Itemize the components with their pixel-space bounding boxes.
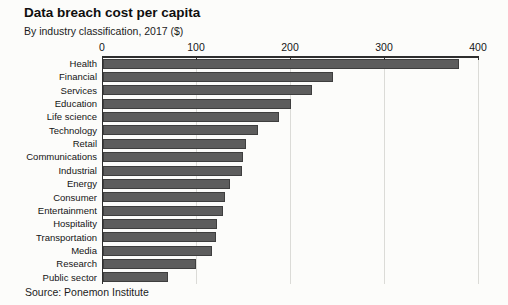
bar: [103, 125, 258, 135]
bar: [103, 72, 333, 82]
bar-track: [103, 124, 478, 137]
x-axis: 0100200300400: [102, 42, 478, 54]
chart-canvas: Data breach cost per capita By industry …: [0, 0, 508, 305]
x-tick-label: 400: [469, 42, 487, 54]
chart-subtitle: By industry classification, 2017 ($): [24, 25, 183, 37]
category-label: Health: [0, 59, 103, 69]
bar: [103, 112, 279, 122]
category-label: Consumer: [0, 193, 103, 203]
bar-track: [103, 70, 478, 83]
bar: [103, 219, 217, 229]
category-label: Retail: [0, 139, 103, 149]
x-axis-tick: [196, 57, 197, 60]
bar-rows: HealthFinancialServicesEducationLife sci…: [0, 57, 478, 284]
bar-row: Consumer: [0, 191, 478, 204]
bar-row: Communications: [0, 151, 478, 164]
category-label: Life science: [0, 112, 103, 122]
bar-row: Life science: [0, 110, 478, 123]
bar: [103, 259, 196, 269]
category-label: Research: [0, 259, 103, 269]
category-label: Financial: [0, 72, 103, 82]
bar-row: Services: [0, 84, 478, 97]
bar: [103, 85, 312, 95]
x-axis-tick: [478, 57, 479, 60]
bar-row: Retail: [0, 137, 478, 150]
category-label: Media: [0, 246, 103, 256]
category-label: Entertainment: [0, 206, 103, 216]
bar-row: Technology: [0, 124, 478, 137]
bar-row: Media: [0, 244, 478, 257]
x-tick-label: 100: [187, 42, 205, 54]
gridline: [478, 57, 479, 284]
bar: [103, 192, 225, 202]
bar-track: [103, 151, 478, 164]
category-label: Public sector: [0, 273, 103, 283]
bar-track: [103, 257, 478, 270]
bar-track: [103, 84, 478, 97]
bar: [103, 179, 230, 189]
bar-row: Education: [0, 97, 478, 110]
category-label: Transportation: [0, 233, 103, 243]
source-note: Source: Ponemon Institute: [25, 286, 149, 298]
x-axis-tick: [290, 57, 291, 60]
category-label: Education: [0, 99, 103, 109]
category-label: Industrial: [0, 166, 103, 176]
bar-track: [103, 177, 478, 190]
bar-track: [103, 110, 478, 123]
bar: [103, 59, 459, 69]
bar-row: Research: [0, 257, 478, 270]
x-axis-tick: [102, 57, 103, 60]
bar-row: Transportation: [0, 231, 478, 244]
category-label: Communications: [0, 152, 103, 162]
bar-row: Energy: [0, 177, 478, 190]
bar-track: [103, 164, 478, 177]
bar-row: Industrial: [0, 164, 478, 177]
x-tick-label: 0: [99, 42, 105, 54]
bar: [103, 232, 216, 242]
bar-track: [103, 271, 478, 284]
bar-track: [103, 97, 478, 110]
bar-row: Financial: [0, 70, 478, 83]
bar: [103, 246, 212, 256]
bar-row: Public sector: [0, 271, 478, 284]
bar-track: [103, 217, 478, 230]
x-tick-label: 200: [281, 42, 299, 54]
bar-track: [103, 244, 478, 257]
bar: [103, 272, 168, 282]
bar-row: Hospitality: [0, 217, 478, 230]
category-label: Energy: [0, 179, 103, 189]
bar: [103, 99, 291, 109]
category-label: Services: [0, 86, 103, 96]
bar: [103, 152, 243, 162]
bar-row: Entertainment: [0, 204, 478, 217]
bar-row: Health: [0, 57, 478, 70]
bar: [103, 206, 223, 216]
bar: [103, 166, 242, 176]
x-tick-label: 300: [375, 42, 393, 54]
chart-title: Data breach cost per capita: [24, 5, 200, 20]
bar-track: [103, 137, 478, 150]
category-label: Technology: [0, 126, 103, 136]
bar-track: [103, 191, 478, 204]
category-label: Hospitality: [0, 219, 103, 229]
bar-track: [103, 231, 478, 244]
x-axis-tick: [384, 57, 385, 60]
bar: [103, 139, 246, 149]
bar-track: [103, 204, 478, 217]
